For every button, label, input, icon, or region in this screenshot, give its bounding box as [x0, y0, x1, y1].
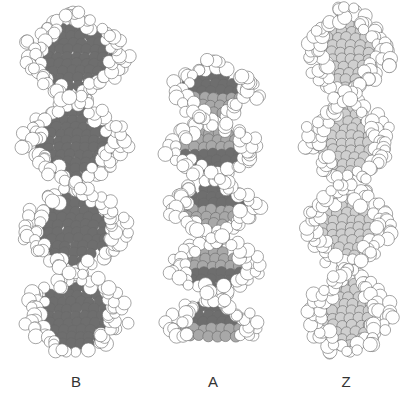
helix-z: [298, 2, 399, 359]
label-b-dna: B: [66, 373, 86, 390]
helix-a: [158, 53, 268, 343]
label-z-dna: Z: [336, 373, 356, 390]
b-dna-helix-model: [0, 0, 404, 405]
label-a-dna: A: [203, 373, 223, 390]
dna-conformations-figure: B A Z: [0, 0, 404, 405]
helix-b: [15, 6, 136, 358]
